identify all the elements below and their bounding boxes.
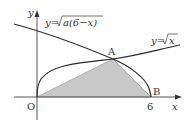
svg-text:x: x — [169, 35, 175, 46]
y-axis-arrow-icon — [35, 10, 40, 17]
y-axis-label: y — [27, 7, 34, 18]
point-a-label: A — [107, 46, 116, 57]
x-axis-label: x — [172, 101, 178, 112]
origin-label: O — [27, 101, 35, 112]
svg-text:y=: y= — [150, 35, 165, 46]
shaded-triangle — [37, 59, 151, 97]
x-axis-arrow-icon — [175, 95, 182, 100]
svg-text:y=: y= — [44, 17, 59, 28]
svg-text:a(6−x): a(6−x) — [63, 17, 97, 28]
graph-figure: y x O A B 6 y= a(6−x) y= x — [0, 0, 189, 123]
tick-6-label: 6 — [147, 101, 153, 112]
upper-curve-label: y= a(6−x) — [44, 16, 103, 28]
point-b-label: B — [153, 86, 160, 97]
lower-curve-label: y= x — [150, 34, 178, 46]
